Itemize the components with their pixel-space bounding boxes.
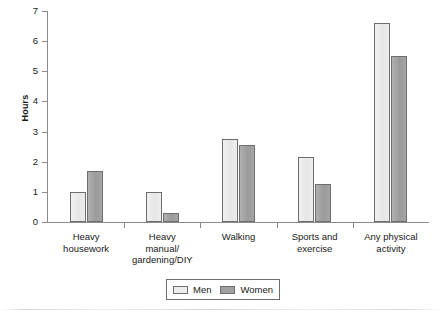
bar-men-5 [374, 23, 390, 222]
y-tick-label: 7 [22, 6, 38, 16]
bar-group [222, 11, 255, 222]
bar-chart-figure: Hours 76543210 Heavy houseworkHeavy manu… [0, 0, 441, 315]
legend-entry-women: Women [220, 285, 273, 295]
x-axis-separator-tick [277, 222, 278, 228]
scan-artifact-line [0, 309, 441, 310]
y-tick-label: 4 [22, 96, 38, 106]
x-axis-line [47, 222, 429, 223]
bar-men-2 [146, 192, 162, 222]
x-axis-separator-tick [124, 222, 125, 228]
bar-group [70, 11, 103, 222]
y-tick-label: 3 [22, 127, 38, 137]
bar-men-4 [298, 157, 314, 222]
x-axis-separator-tick [353, 222, 354, 228]
chart-legend: Men Women [166, 279, 280, 300]
bar-women-3 [239, 145, 255, 222]
y-tick-label: 1 [22, 187, 38, 197]
category-label: Heavy manual/ gardening/DIY [124, 231, 200, 266]
bar-group [146, 11, 179, 222]
bar-women-5 [391, 56, 407, 222]
y-tick-label: 6 [22, 36, 38, 46]
category-label: Walking [200, 231, 276, 243]
category-label: Sports and exercise [277, 231, 353, 254]
legend-label-women: Women [240, 285, 273, 295]
category-label: Any physical activity [353, 231, 429, 254]
y-tick-label: 5 [22, 66, 38, 76]
bar-men-3 [222, 139, 238, 222]
plot-area [48, 11, 429, 222]
bar-group [298, 11, 331, 222]
legend-swatch-women-icon [220, 286, 235, 294]
bar-women-1 [87, 171, 103, 222]
x-axis-separator-tick [200, 222, 201, 228]
category-label: Heavy housework [48, 231, 124, 254]
legend-swatch-men-icon [173, 286, 188, 294]
y-tick-label: 0 [22, 217, 38, 227]
y-tick-label: 2 [22, 157, 38, 167]
bar-group [374, 11, 407, 222]
legend-entry-men: Men [173, 285, 211, 295]
legend-label-men: Men [193, 285, 211, 295]
bar-women-2 [163, 213, 179, 222]
bar-women-4 [315, 184, 331, 222]
bar-men-1 [70, 192, 86, 222]
